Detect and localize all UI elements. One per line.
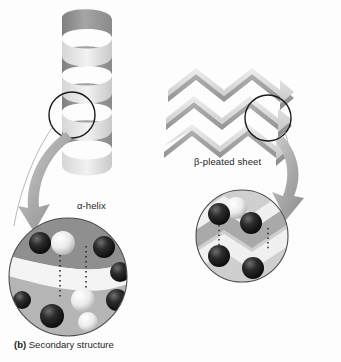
alpha-helix-atomic-inset [9,218,130,336]
atom-dark [40,304,64,328]
atom-light [71,288,95,312]
caption-text: Secondary structure [29,339,114,350]
atom-dark [208,245,230,267]
beta-sheet-atomic-inset [196,190,288,282]
figure-caption: (b) Secondary structure [14,339,114,350]
helix-zoom-arrow [18,132,72,232]
beta-pleated-sheet-label: β-pleated sheet [194,156,261,167]
atom-light [51,231,75,255]
secondary-structure-figure: α-helix β-pleated sheet (b) Secondary st… [0,0,341,362]
atom-dark [242,257,264,279]
atom-dark [240,212,262,234]
beta-pleated-sheet-ribbon [164,68,294,166]
caption-tag: (b) [14,339,26,350]
alpha-helix-label: α-helix [77,200,106,211]
figure-artwork [0,0,341,362]
atom-dark [93,236,115,258]
atom-dark [208,203,230,225]
atom-dark [13,291,31,309]
atom-dark [29,232,51,254]
